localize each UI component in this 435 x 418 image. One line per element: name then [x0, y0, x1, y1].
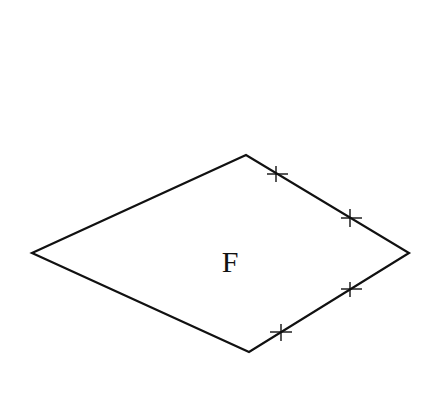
shape-label: F — [222, 245, 239, 278]
kite-shape — [32, 155, 409, 352]
tick-mark — [341, 209, 362, 227]
kite-diagram: F — [0, 0, 435, 418]
tick-marks — [267, 166, 362, 341]
